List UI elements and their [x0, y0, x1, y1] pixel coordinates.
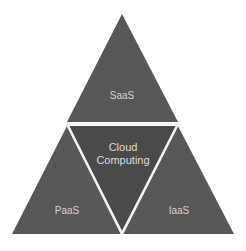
segment-saas: [67, 14, 178, 122]
label-cloud-computing: Cloud Computing: [87, 141, 159, 167]
label-saas: SaaS: [102, 90, 142, 102]
label-paas: PaaS: [47, 205, 87, 217]
label-computing: Computing: [87, 154, 159, 167]
cloud-computing-diagram: SaaS Cloud Computing PaaS IaaS: [0, 0, 246, 251]
triangle-graphic: [0, 0, 246, 251]
label-cloud: Cloud: [87, 141, 159, 154]
label-iaas: IaaS: [159, 205, 199, 217]
